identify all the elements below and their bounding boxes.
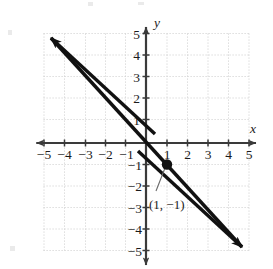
x-tick-label-5: 5	[246, 147, 253, 162]
y-tick-label-m2: −2	[128, 179, 142, 194]
scan-artifact-left-edge	[8, 30, 12, 35]
x-tick-label-m4: −4	[57, 147, 72, 162]
y-axis-label: y	[152, 15, 160, 30]
x-axis-label: x	[249, 121, 256, 136]
coordinate-plane: −5 −4 −3 −2 −1 1 2 3 4 5 5 4 3 2 1 −1 −2…	[0, 0, 273, 269]
x-axis-tick-labels: −5 −4 −3 −2 −1 1 2 3 4 5	[37, 147, 253, 162]
scan-artifact-top-right	[138, 2, 144, 5]
scan-artifact-top-left	[88, 2, 93, 6]
graph-figure: −5 −4 −3 −2 −1 1 2 3 4 5 5 4 3 2 1 −1 −2…	[0, 0, 273, 269]
y-tick-label-2: 2	[133, 91, 140, 106]
x-tick-label-m5: −5	[37, 147, 52, 162]
x-tick-label-m3: −3	[78, 147, 93, 162]
scan-artifact-bottom-left	[10, 246, 15, 251]
y-tick-label-3: 3	[133, 70, 140, 85]
y-tick-label-5: 5	[133, 27, 140, 42]
y-tick-label-m4: −4	[128, 222, 143, 237]
x-tick-label-3: 3	[205, 147, 212, 162]
x-tick-label-m2: −2	[98, 147, 112, 162]
x-tick-label-2: 2	[184, 147, 191, 162]
y-tick-label-m3: −3	[128, 201, 143, 216]
y-tick-label-m1: −1	[128, 158, 142, 173]
x-tick-label-4: 4	[225, 147, 232, 162]
y-tick-label-4: 4	[133, 48, 140, 63]
y-tick-label-m5: −5	[128, 244, 143, 259]
point-coordinate-label: (1, −1)	[149, 197, 185, 212]
plotted-point-marker	[162, 159, 172, 169]
